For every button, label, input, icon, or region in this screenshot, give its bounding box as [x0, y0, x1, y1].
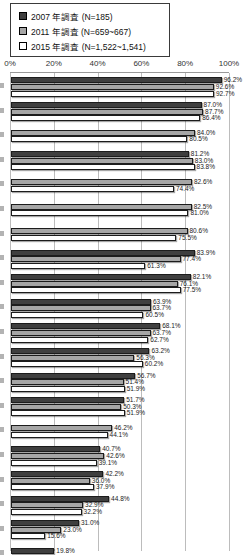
category-label-fragment-clipped	[0, 108, 4, 113]
bar-2007-group12	[11, 348, 149, 354]
bar-2007-group10	[11, 299, 151, 305]
plot-area: 96.2%92.6%92.7%87.0%87.7%86.4%84.0%80.5%…	[10, 72, 229, 551]
bar-2015-group2	[11, 115, 200, 121]
bar-value-label: 74.4%	[176, 185, 194, 192]
bar-value-label: 15.6%	[47, 532, 65, 539]
bar-2015-group15	[11, 432, 108, 438]
bar-2015-group18	[11, 509, 82, 515]
category-label-fragment-clipped	[0, 157, 4, 162]
bar-2011-group12	[11, 355, 134, 361]
bar-value-label: 86.4%	[202, 114, 220, 121]
bar-2011-group13	[11, 379, 124, 385]
bar-value-label: 83.8%	[197, 163, 215, 170]
bar-2007-group9	[11, 274, 191, 280]
bar-value-label: 61.3%	[147, 262, 165, 269]
bar-2011-group2	[11, 109, 203, 115]
x-axis-tick-100: 100%	[213, 59, 245, 68]
bar-value-label: 60.2%	[145, 360, 163, 367]
x-axis-tick-80: 80%	[169, 59, 201, 68]
bar-2015-group17	[11, 484, 94, 490]
bar-2015-group8	[11, 263, 145, 269]
x-axis-tick-40: 40%	[82, 59, 114, 68]
bar-value-label: 37.9%	[96, 483, 114, 490]
category-label-fragment-clipped	[0, 526, 4, 531]
bar-2011-group18	[11, 502, 83, 508]
bar-2007-group14	[11, 397, 124, 403]
category-label-fragment-clipped	[0, 83, 4, 88]
bar-2015-group6	[11, 210, 188, 216]
bar-2007-group11	[11, 323, 160, 329]
legend-item-2007: 2007 年調査 (N=185)	[19, 8, 167, 23]
legend-label-2011: 2011 年調査 (N=659~667)	[31, 25, 131, 37]
category-label-fragment-clipped	[0, 255, 4, 260]
bar-2011-group1	[11, 84, 214, 90]
legend-label-2015: 2015 年調査 (N=1,522~1,541)	[31, 40, 146, 52]
bar-2011-group10	[11, 305, 151, 311]
bar-2015-group9	[11, 287, 181, 293]
bar-value-label: 51.9%	[127, 409, 145, 416]
bar-2007-group13	[11, 373, 135, 379]
bar-2011-group3	[11, 130, 195, 136]
bar-value-label: 51.9%	[127, 385, 145, 392]
bar-2015-group5	[11, 186, 174, 192]
bar-2015-group12	[11, 361, 143, 367]
bar-value-label: 77.5%	[183, 286, 201, 293]
bar-2007-group20	[11, 548, 54, 554]
bar-value-label: 39.1%	[99, 459, 117, 466]
bar-value-label: 60.5%	[145, 311, 163, 318]
gridline-80	[185, 73, 186, 551]
bar-2015-group13	[11, 386, 125, 392]
bar-2015-group10	[11, 312, 143, 318]
x-axis-tick-0: 0%	[0, 59, 26, 68]
legend-swatch-2011-icon	[19, 27, 27, 35]
category-label-fragment-clipped	[0, 452, 4, 457]
bar-value-label: 32.2%	[84, 508, 102, 515]
x-axis-tick-60: 60%	[125, 59, 157, 68]
bar-2011-group9	[11, 281, 178, 287]
bar-2015-group7	[11, 235, 176, 241]
bar-value-label: 62.7%	[150, 336, 168, 343]
bar-2007-group8	[11, 250, 195, 256]
bar-2011-group14	[11, 404, 121, 410]
category-label-fragment-clipped	[0, 378, 4, 383]
bar-2011-group11	[11, 330, 151, 336]
legend-item-2011: 2011 年調査 (N=659~667)	[19, 23, 167, 38]
category-label-fragment-clipped	[0, 132, 4, 137]
bar-2015-group4	[11, 164, 195, 170]
bar-2015-group16	[11, 460, 97, 466]
bar-value-label: 81.0%	[190, 209, 208, 216]
legend-label-2007: 2007 年調査 (N=185)	[31, 10, 113, 22]
bar-value-label: 44.8%	[111, 495, 129, 502]
bar-value-label: 44.1%	[110, 431, 128, 438]
legend: 2007 年調査 (N=185) 2011 年調査 (N=659~667) 20…	[10, 3, 170, 57]
bar-2011-group7	[11, 228, 188, 234]
x-axis-tick-20: 20%	[38, 59, 70, 68]
category-label-fragment-clipped	[0, 206, 4, 211]
bar-value-label: 23.0%	[63, 526, 81, 533]
bar-2007-group2	[11, 102, 202, 108]
legend-swatch-2015-icon	[19, 42, 27, 50]
bar-2011-group5	[11, 179, 192, 185]
category-label-fragment-clipped	[0, 427, 4, 432]
category-label-fragment-clipped	[0, 304, 4, 309]
bar-2011-group15	[11, 425, 112, 431]
category-label-fragment-clipped	[0, 181, 4, 186]
bar-2015-group3	[11, 136, 187, 142]
gridline-100	[229, 73, 230, 551]
category-label-fragment-clipped	[0, 501, 4, 506]
bar-2007-group1	[11, 77, 222, 83]
bar-2007-group17	[11, 471, 103, 477]
category-label-fragment-clipped	[0, 329, 4, 334]
bar-2011-group17	[11, 478, 90, 484]
bar-value-label: 80.5%	[189, 135, 207, 142]
bar-value-label: 82.6%	[194, 178, 212, 185]
category-label-fragment-clipped	[0, 280, 4, 285]
category-label-fragment-clipped	[0, 354, 4, 359]
bar-2007-group4	[11, 151, 189, 157]
bar-2007-group16	[11, 446, 100, 452]
bar-value-label: 75.5%	[178, 234, 196, 241]
bar-value-label: 31.0%	[81, 519, 99, 526]
legend-swatch-2007-icon	[19, 12, 27, 20]
bar-value-label: 92.7%	[216, 90, 234, 97]
bar-2011-group6	[11, 204, 192, 210]
